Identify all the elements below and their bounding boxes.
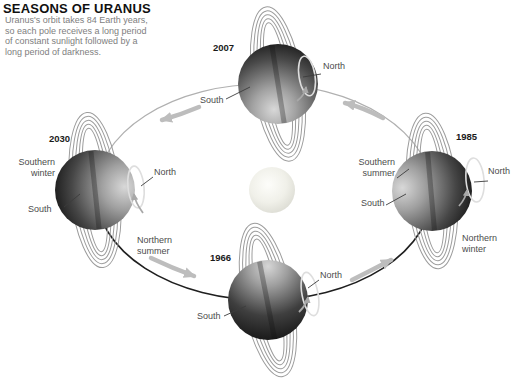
uranus-seasons-diagram: SEASONS OF URANUS Uranus's orbit takes 8…	[0, 0, 511, 385]
orbit-arrow-bottom-left-icon	[151, 258, 194, 276]
south-label-2007: South	[200, 95, 224, 106]
north-label-1985: North	[488, 166, 510, 177]
south-label-1985: South	[361, 198, 385, 209]
year-label-1966: 1966	[210, 252, 231, 263]
orbit-arrow-bottom-right-icon	[352, 260, 391, 280]
orbit-arrow-top-left-icon	[162, 107, 199, 120]
southern-winter-label: Southern winter	[10, 157, 55, 178]
diagram-graphics	[0, 0, 511, 385]
year-label-2007: 2007	[213, 42, 234, 53]
sun	[249, 167, 295, 213]
year-label-1985: 1985	[456, 131, 477, 142]
south-label-2030: South	[28, 204, 52, 215]
north-label-2007: North	[323, 61, 345, 72]
northern-winter-label: Northern winter	[462, 233, 497, 254]
year-label-2030: 2030	[49, 133, 70, 144]
southern-summer-label: Southern summer	[350, 157, 395, 178]
north-label-1966: North	[320, 270, 342, 281]
intro-text: Uranus's orbit takes 84 Earth years, so …	[5, 15, 175, 57]
south-label-1966: South	[197, 311, 221, 322]
northern-summer-label: Northern summer	[137, 235, 172, 256]
north-label-2030: North	[154, 167, 176, 178]
page-title: SEASONS OF URANUS	[3, 1, 151, 16]
